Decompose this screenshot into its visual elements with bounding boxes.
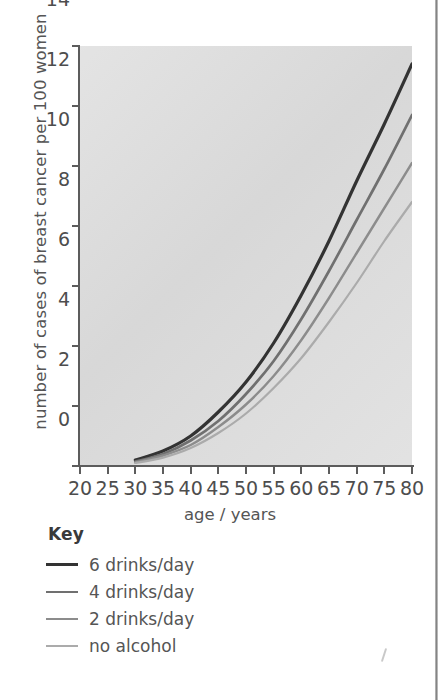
x-tick — [245, 467, 247, 474]
y-tick-label: 14 — [30, 0, 70, 10]
y-axis-line — [78, 45, 80, 467]
plot-area — [80, 46, 412, 466]
y-axis-tick-labels: 02468101214 — [26, 0, 70, 470]
chart-page: number of cases of breast cancer per 100… — [0, 0, 444, 700]
series-curves — [80, 46, 412, 466]
legend-line-icon — [46, 563, 78, 566]
legend-item-label: no alcohol — [89, 636, 176, 656]
x-tick — [134, 467, 136, 474]
x-tick — [328, 467, 330, 474]
x-tick — [356, 467, 358, 474]
x-tick — [79, 467, 81, 474]
legend-line-icon — [46, 618, 78, 620]
x-tick — [107, 467, 109, 474]
x-axis-title: age / years — [140, 505, 320, 524]
chart-legend: Key 6 drinks/day4 drinks/day2 drinks/day… — [46, 524, 376, 659]
x-tick — [162, 467, 164, 474]
legend-title: Key — [48, 524, 376, 544]
legend-line-icon — [46, 645, 78, 647]
y-tick-label: 10 — [30, 108, 70, 130]
y-tick-label: 2 — [30, 348, 70, 370]
scan-artifact-mark — [381, 648, 387, 662]
legend-items: 6 drinks/day4 drinks/day2 drinks/dayno a… — [46, 551, 376, 659]
x-tick-label: 80 — [392, 477, 432, 499]
legend-item-label: 4 drinks/day — [89, 582, 194, 602]
x-tick — [383, 467, 385, 474]
legend-item: 6 drinks/day — [46, 551, 376, 578]
y-tick-label: 12 — [30, 48, 70, 70]
x-tick — [217, 467, 219, 474]
legend-item-label: 6 drinks/day — [89, 555, 194, 575]
x-tick — [411, 467, 413, 474]
y-tick-label: 8 — [30, 168, 70, 190]
page-scan-edge — [435, 0, 438, 700]
series-line — [135, 202, 412, 463]
y-tick-label: 0 — [30, 408, 70, 430]
legend-line-icon — [46, 591, 78, 593]
y-tick-label: 4 — [30, 288, 70, 310]
x-tick — [300, 467, 302, 474]
legend-item: 4 drinks/day — [46, 578, 376, 605]
x-tick — [190, 467, 192, 474]
y-tick-label: 6 — [30, 228, 70, 250]
series-line — [135, 163, 412, 462]
legend-item-label: 2 drinks/day — [89, 609, 194, 629]
x-tick — [273, 467, 275, 474]
chart-figure: number of cases of breast cancer per 100… — [0, 0, 420, 520]
legend-item: no alcohol — [46, 632, 376, 659]
legend-item: 2 drinks/day — [46, 605, 376, 632]
series-line — [135, 115, 412, 462]
